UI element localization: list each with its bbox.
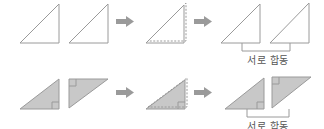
right-arrow-icon — [194, 87, 212, 98]
congruent-pair — [221, 3, 309, 51]
row-shaded — [20, 79, 108, 109]
triangle-2 — [69, 4, 108, 43]
right-arrow-icon — [116, 16, 134, 27]
triangle-2 — [69, 79, 108, 108]
triangle-1 — [20, 4, 59, 43]
triangle-1 — [20, 79, 59, 109]
right-arrow-icon — [194, 16, 212, 27]
overlapped-triangles — [146, 78, 187, 109]
congruent-label: 서로 합동 — [247, 52, 289, 67]
row-outline — [20, 4, 108, 43]
right-arrow-icon — [116, 87, 134, 98]
congruence-bracket — [242, 43, 290, 51]
congruent-label: 서로 합동 — [247, 118, 289, 129]
overlapped-triangles — [146, 3, 186, 43]
congruent-pair — [225, 77, 311, 117]
congruence-bracket — [247, 109, 289, 117]
